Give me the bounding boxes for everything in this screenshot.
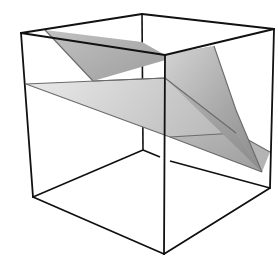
front-left-vertical-edge <box>21 33 33 197</box>
back-right-vertical-edge <box>270 29 274 188</box>
bottom-front-right-edge <box>164 188 270 254</box>
cube-diagram <box>0 0 278 272</box>
top-right-edge <box>165 29 274 55</box>
top-back-edge <box>142 14 274 29</box>
back-bottom-right-edge <box>143 150 160 157</box>
back-bottom-left-edge <box>33 150 143 197</box>
bottom-front-left-edge <box>33 197 164 254</box>
top-left-edge <box>21 14 142 33</box>
front-right-vertical-edge <box>164 55 165 254</box>
